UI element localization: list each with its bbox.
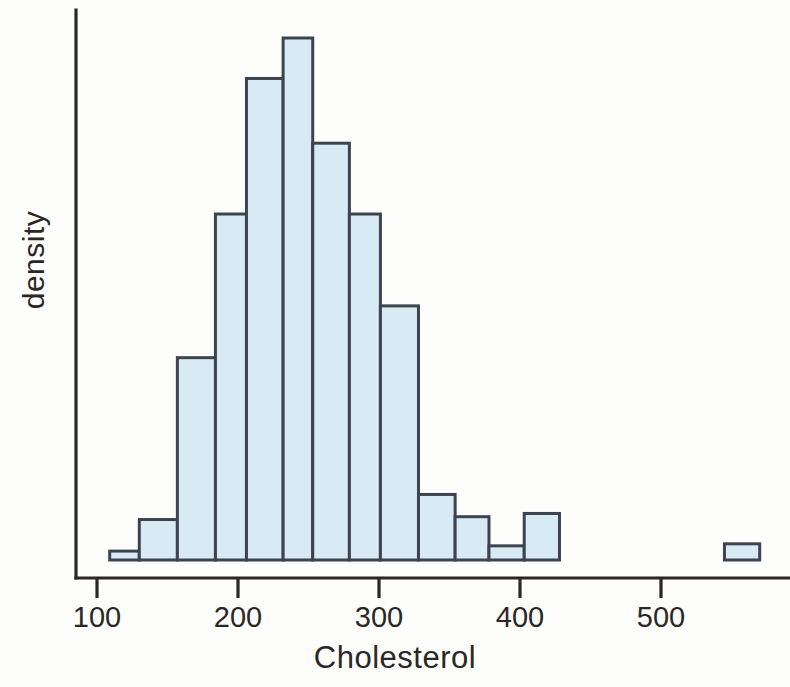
x-axis-ticks (97, 578, 661, 598)
histogram-bar (524, 513, 559, 560)
histogram-bar (349, 214, 380, 560)
histogram-bar (380, 306, 418, 560)
histogram-bar (215, 214, 246, 560)
histogram-bar (139, 520, 177, 560)
histogram-bar (455, 517, 489, 560)
plot-area: 100200300400500 density Cholesterol (0, 0, 790, 687)
histogram-figure: 100200300400500 density Cholesterol (0, 0, 790, 687)
histogram-bar (489, 546, 524, 560)
histogram-bars (110, 38, 760, 560)
x-tick-label: 100 (52, 601, 142, 634)
histogram-bar (724, 544, 759, 560)
x-tick-label: 200 (193, 601, 283, 634)
y-axis-title: density (17, 190, 51, 330)
histogram-bar (177, 358, 215, 560)
x-tick-label: 500 (616, 601, 706, 634)
x-axis-title: Cholesterol (0, 640, 790, 676)
histogram-bar (246, 78, 283, 560)
histogram-bar (313, 143, 350, 560)
histogram-plot (0, 0, 790, 687)
x-tick-label: 300 (334, 601, 424, 634)
histogram-bar (418, 494, 455, 560)
histogram-bar (110, 551, 140, 560)
histogram-bar (283, 38, 313, 560)
x-tick-label: 400 (475, 601, 565, 634)
